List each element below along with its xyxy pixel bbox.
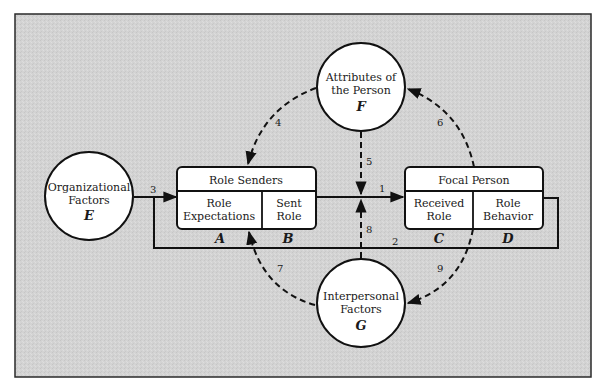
arrow-9-label: 9 xyxy=(437,263,443,274)
received-role-line2: Role xyxy=(427,210,452,223)
focal-person-title: Focal Person xyxy=(438,174,509,187)
label-d: D xyxy=(501,231,514,246)
label-b: B xyxy=(282,231,294,246)
sent-role-line2: Role xyxy=(277,210,302,223)
circle-e-letter: E xyxy=(83,208,95,223)
arrow-7-label: 7 xyxy=(277,263,283,274)
circle-f-line2: the Person xyxy=(331,84,391,97)
role-senders-title: Role Senders xyxy=(209,174,283,187)
role-behavior-line1: Role xyxy=(496,197,521,210)
sent-role-line1: Sent xyxy=(276,197,302,210)
role-behavior-line2: Behavior xyxy=(483,210,534,223)
circle-attributes-of-person: Attributes of the Person F xyxy=(317,43,405,131)
arrow-3-label: 3 xyxy=(150,184,156,195)
arrow-1-label: 1 xyxy=(379,183,385,194)
circle-e-line2: Factors xyxy=(68,194,110,207)
circle-f-letter: F xyxy=(355,99,366,114)
circle-f-line1: Attributes of xyxy=(325,71,397,84)
arrow-5-label: 5 xyxy=(366,156,372,167)
circle-organizational-factors: Organizational Factors E xyxy=(45,152,133,240)
circle-e-line1: Organizational xyxy=(48,181,131,194)
received-role-line1: Received xyxy=(414,197,465,210)
circle-g-line1: Interpersonal xyxy=(323,290,399,303)
role-expectations-line2: Expectations xyxy=(183,210,256,223)
circle-interpersonal-factors: Interpersonal Factors G xyxy=(317,259,405,347)
diagram-canvas: 1 2 3 4 5 6 7 8 9 Organizational Factors… xyxy=(0,0,603,391)
circle-g-letter: G xyxy=(355,318,366,333)
arrow-4-label: 4 xyxy=(275,117,281,128)
circle-g-line2: Factors xyxy=(340,303,382,316)
label-a: A xyxy=(213,231,225,246)
role-expectations-line1: Role xyxy=(207,197,232,210)
role-episode-diagram: 1 2 3 4 5 6 7 8 9 Organizational Factors… xyxy=(0,0,603,391)
arrow-8-label: 8 xyxy=(366,224,372,235)
arrow-6-label: 6 xyxy=(437,117,443,128)
arrow-2-label: 2 xyxy=(392,236,398,247)
label-c: C xyxy=(434,231,445,246)
